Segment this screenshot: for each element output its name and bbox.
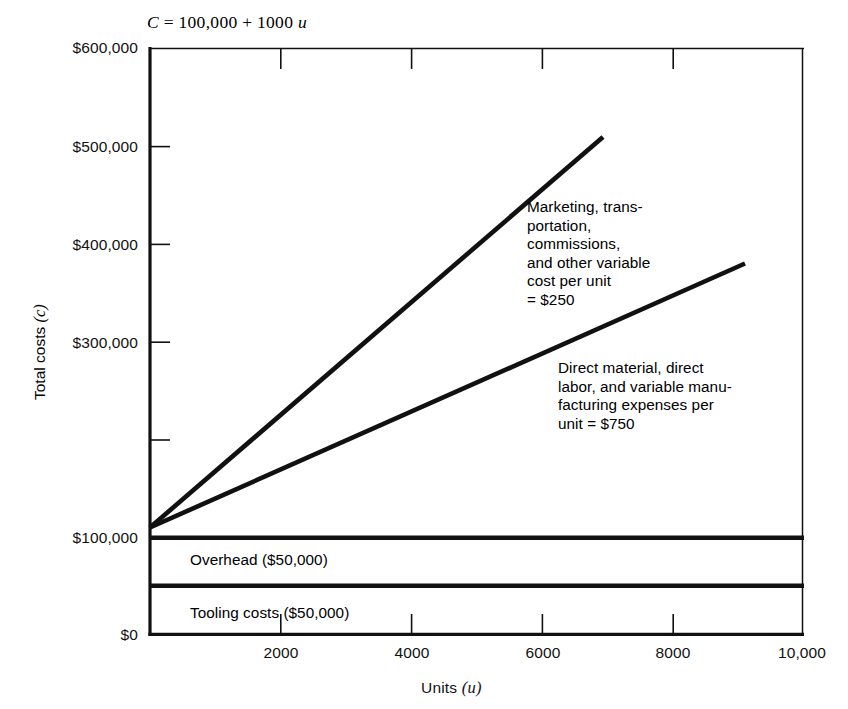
x-axis-title-text: Units [421,679,462,696]
x-tick-label-4000: 4000 [362,645,462,661]
y-axis-title-text: Total costs [31,322,48,400]
direct-material-annotation: Direct material, direct labor, and varia… [558,359,732,433]
x-tick-label-8000: 8000 [623,645,723,661]
y-axis-title: Total costs (c) [30,304,50,400]
marketing-annotation-line-2: portation, [527,217,591,234]
y-tick-label-300000: $300,000 [0,335,138,351]
x-axis-title: Units (u) [421,680,482,697]
marketing-annotation-line-6: = $250 [527,291,575,308]
marketing-annotation-line-1: Marketing, trans- [527,198,643,215]
axis-lines [148,47,804,636]
y-tick-label-600000: $600,000 [0,40,138,56]
y-tick-label-500000: $500,000 [0,139,138,155]
x-axis-ticks [281,49,673,635]
marketing-annotation-line-3: commissions, [527,235,620,252]
x-tick-label-10000: 10,000 [752,645,848,661]
direct-material-annotation-line-3: facturing expenses per [558,396,714,413]
tooling-band-label: Tooling costs ($50,000) [190,604,349,622]
chart-title-variable-c: C [147,12,159,32]
x-tick-label-6000: 6000 [493,645,593,661]
chart-figure: C = 100,000 + 1000 u $600,000 $500,000 $… [0,0,848,709]
chart-title-expression: = 100,000 + 1000 [159,12,298,32]
marketing-annotation-line-5: cost per unit [527,272,611,289]
overhead-band-label: Overhead ($50,000) [190,551,328,569]
y-tick-label-0: $0 [0,627,138,643]
direct-material-annotation-line-2: labor, and variable manu- [558,378,732,395]
x-axis-title-variable: (u) [462,678,482,697]
y-axis-ticks [150,147,170,538]
direct-material-annotation-line-1: Direct material, direct [558,359,704,376]
x-tick-label-2000: 2000 [231,645,331,661]
y-tick-label-100000: $100,000 [0,530,138,546]
chart-title: C = 100,000 + 1000 u [147,12,307,33]
chart-title-variable-u: u [298,12,307,32]
direct-material-annotation-line-4: unit = $750 [558,415,635,432]
y-tick-label-400000: $400,000 [0,237,138,253]
marketing-annotation: Marketing, trans- portation, commissions… [527,198,650,310]
y-axis-title-variable: (c) [30,304,49,322]
chart-canvas [0,0,848,709]
series-line-marketing [150,137,603,528]
marketing-annotation-line-4: and other variable [527,254,650,271]
